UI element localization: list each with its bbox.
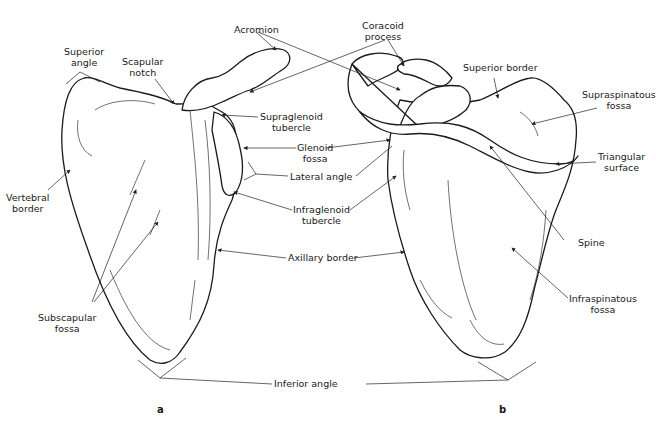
label-supraglenoid-tubercle: Supraglenoid tubercle [260,111,323,133]
scapula-a-acromion [182,49,290,111]
label-subscapular-fossa: Subscapular fossa [38,312,97,334]
scapula-posterior-view [348,53,578,358]
panel-caption-a: a [157,404,164,415]
label-inferior-angle: Inferior angle [274,378,338,389]
label-glenoid-fossa: Glenoid fossa [297,142,333,164]
panel-caption-b: b [499,404,506,415]
label-supraspinatous-fossa: Supraspinatous fossa [582,89,656,111]
label-infraglenoid-tubercle: Infraglenoid tubercle [293,204,350,226]
label-infraspinatous-fossa: Infraspinatous fossa [569,293,637,315]
label-vertebral-border: Vertebral border [6,192,49,214]
label-scapular-notch: Scapular notch [122,56,164,78]
label-spine: Spine [578,237,605,248]
label-triangular-surface: Triangular surface [598,151,645,173]
label-coracoid-process: Coracoid process [362,20,404,42]
label-lateral-angle: Lateral angle [290,171,352,182]
scapula-diagram: Acromion Coracoid process Superior angle… [0,0,656,429]
label-superior-border: Superior border [463,62,538,73]
label-axillary-border: Axillary border [288,252,358,263]
label-superior-angle: Superior angle [64,46,104,68]
scapula-b-coracoid [397,59,452,86]
label-acromion: Acromion [234,24,279,35]
